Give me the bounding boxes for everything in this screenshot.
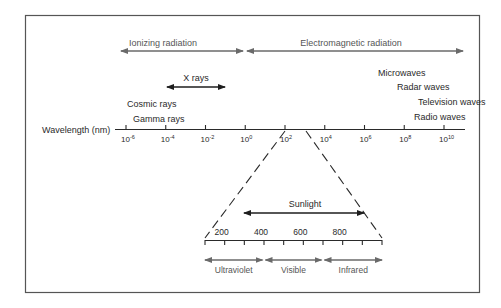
label-cosmic-rays: Cosmic rays bbox=[127, 99, 177, 109]
zoom-line-left bbox=[205, 131, 285, 238]
axis-tick-label: 1010 bbox=[439, 134, 454, 144]
range-ionizing: Ionizing radiation bbox=[121, 38, 243, 51]
band-label-ultraviolet: Ultraviolet bbox=[215, 265, 253, 275]
axis-tick-label: 10-2 bbox=[201, 134, 215, 144]
axis-label: Wavelength (nm) bbox=[42, 125, 110, 135]
label-television-waves: Television waves bbox=[418, 97, 486, 107]
band-label-infrared: Infrared bbox=[339, 265, 369, 275]
axis-tick-label: 10-6 bbox=[121, 134, 135, 144]
visible-axis-tick-label: 200 bbox=[215, 227, 229, 237]
label-radar-waves: Radar waves bbox=[397, 82, 450, 92]
label-radio-waves: Radio waves bbox=[414, 112, 466, 122]
axis-tick-label: 100 bbox=[240, 134, 252, 144]
sunlight-range: Sunlight bbox=[244, 199, 364, 213]
visible-axis-tick-label: 600 bbox=[293, 227, 307, 237]
axis-ticks: 10-610-410-21001021041061081010 bbox=[121, 125, 454, 144]
zoom-line-right bbox=[306, 131, 382, 238]
xrays-label: X rays bbox=[183, 73, 209, 83]
label-gamma-rays: Gamma rays bbox=[133, 114, 185, 124]
band-label-visible: Visible bbox=[281, 265, 306, 275]
axis-tick-label: 106 bbox=[360, 134, 372, 144]
spectrum-diagram: Ionizing radiation Electromagnetic radia… bbox=[0, 0, 501, 308]
visible-axis-tick-label: 800 bbox=[333, 227, 347, 237]
range-electromagnetic-label: Electromagnetic radiation bbox=[300, 38, 402, 48]
xrays-range: X rays bbox=[167, 73, 225, 87]
spectrum-bands: UltravioletVisibleInfrared bbox=[205, 260, 382, 275]
diagram-frame bbox=[26, 16, 480, 293]
range-ionizing-label: Ionizing radiation bbox=[129, 38, 197, 48]
axis-tick-label: 108 bbox=[399, 134, 411, 144]
visible-axis-ticks: 200400600800 bbox=[205, 227, 382, 245]
range-electromagnetic: Electromagnetic radiation bbox=[247, 38, 463, 51]
label-microwaves: Microwaves bbox=[378, 68, 426, 78]
visible-axis-tick-label: 400 bbox=[254, 227, 268, 237]
sunlight-label: Sunlight bbox=[289, 199, 322, 209]
axis-tick-label: 10-4 bbox=[161, 134, 175, 144]
axis-tick-label: 104 bbox=[320, 134, 332, 144]
